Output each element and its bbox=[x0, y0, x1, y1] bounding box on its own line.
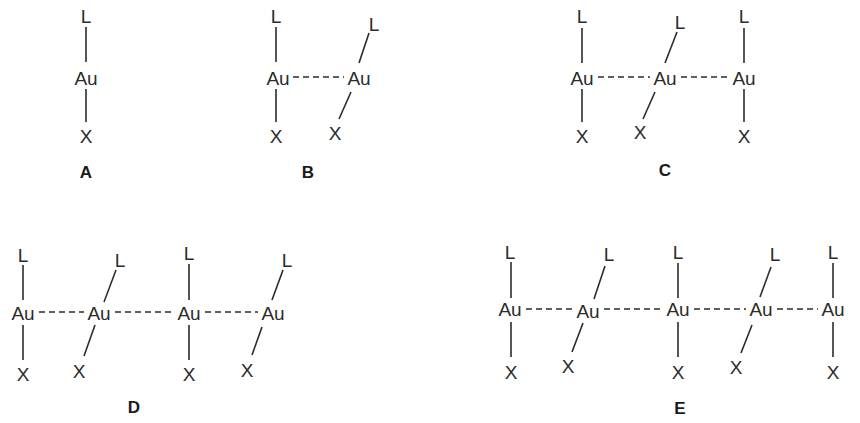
ligand-l: L bbox=[505, 242, 516, 263]
halide-x: X bbox=[17, 364, 30, 385]
halide-x: X bbox=[73, 361, 86, 382]
halide-x: X bbox=[634, 122, 647, 143]
au-x-bond bbox=[339, 92, 351, 119]
structure-d: LAuXLAuXLAuXLAuXD bbox=[11, 243, 292, 417]
lauX-unit: LAuX bbox=[821, 242, 844, 383]
au-x-bond bbox=[643, 92, 655, 119]
lauX-unit: LAuX bbox=[241, 250, 293, 381]
ligand-l: L bbox=[81, 6, 92, 27]
halide-x: X bbox=[576, 126, 589, 147]
lauX-unit: LAuX bbox=[666, 242, 689, 383]
lauX-unit: LAuX bbox=[266, 6, 289, 147]
halide-x: X bbox=[730, 357, 743, 378]
gold-atom: Au bbox=[732, 68, 755, 89]
structure-b: LAuXLAuXB bbox=[266, 6, 379, 182]
ligand-l: L bbox=[184, 243, 195, 264]
au-x-bond bbox=[741, 325, 752, 353]
au-l-bond bbox=[272, 270, 283, 300]
halide-x: X bbox=[562, 356, 575, 377]
gold-atom: Au bbox=[498, 299, 521, 320]
lauX-unit: LAuX bbox=[562, 244, 615, 377]
lauX-unit: LAuX bbox=[732, 6, 755, 147]
au-x-bond bbox=[572, 323, 583, 352]
halide-x: X bbox=[827, 362, 840, 383]
gold-atom: Au bbox=[177, 303, 200, 324]
ligand-l: L bbox=[828, 242, 839, 263]
structure-label: A bbox=[80, 163, 92, 182]
structure-c: LAuXLAuXLAuXC bbox=[570, 6, 755, 180]
gold-atom: Au bbox=[749, 299, 772, 320]
halide-x: X bbox=[738, 126, 751, 147]
halide-x: X bbox=[183, 364, 196, 385]
structure-label: E bbox=[674, 399, 685, 418]
structure-label: D bbox=[128, 398, 140, 417]
gold-atom: Au bbox=[576, 301, 599, 322]
structure-a: LAuXA bbox=[74, 6, 97, 182]
gold-chain-diagram: LAuXALAuXLAuXBLAuXLAuXLAuXCLAuXLAuXLAuXL… bbox=[0, 0, 860, 423]
ligand-l: L bbox=[604, 244, 615, 265]
au-l-bond bbox=[594, 266, 605, 299]
ligand-l: L bbox=[369, 14, 380, 35]
halide-x: X bbox=[505, 362, 518, 383]
lauX-unit: LAuX bbox=[570, 6, 593, 147]
halide-x: X bbox=[329, 123, 342, 144]
halide-x: X bbox=[241, 360, 254, 381]
lauX-unit: LAuX bbox=[177, 243, 200, 385]
structure-label: B bbox=[302, 163, 314, 182]
gold-atom: Au bbox=[570, 68, 593, 89]
gold-atom: Au bbox=[347, 68, 370, 89]
ligand-l: L bbox=[282, 250, 293, 271]
lauX-unit: LAuX bbox=[329, 14, 380, 144]
gold-atom: Au bbox=[821, 299, 844, 320]
ligand-l: L bbox=[18, 245, 29, 266]
lauX-unit: LAuX bbox=[73, 250, 126, 382]
gold-atom: Au bbox=[87, 303, 110, 324]
gold-atom: Au bbox=[11, 303, 34, 324]
au-l-bond bbox=[104, 270, 116, 302]
structure-e: LAuXLAuXLAuXLAuXLAuXE bbox=[498, 242, 844, 418]
gold-atom: Au bbox=[261, 303, 284, 324]
ligand-l: L bbox=[673, 242, 684, 263]
lauX-unit: LAuX bbox=[74, 6, 97, 147]
gold-atom: Au bbox=[266, 68, 289, 89]
gold-atom: Au bbox=[653, 68, 676, 89]
lauX-unit: LAuX bbox=[498, 242, 521, 383]
halide-x: X bbox=[672, 362, 685, 383]
au-x-bond bbox=[252, 327, 262, 355]
lauX-unit: LAuX bbox=[730, 244, 781, 378]
ligand-l: L bbox=[770, 244, 781, 265]
gold-atom: Au bbox=[74, 68, 97, 89]
halide-x: X bbox=[80, 126, 93, 147]
ligand-l: L bbox=[115, 250, 126, 271]
ligand-l: L bbox=[739, 6, 750, 27]
au-l-bond bbox=[665, 32, 677, 63]
ligand-l: L bbox=[675, 12, 686, 33]
ligand-l: L bbox=[577, 6, 588, 27]
au-l-bond bbox=[760, 267, 771, 297]
lauX-unit: LAuX bbox=[11, 245, 34, 385]
structure-label: C bbox=[659, 161, 671, 180]
halide-x: X bbox=[270, 126, 283, 147]
gold-atom: Au bbox=[666, 299, 689, 320]
au-l-bond bbox=[359, 33, 369, 63]
au-x-bond bbox=[84, 325, 95, 356]
ligand-l: L bbox=[271, 6, 282, 27]
